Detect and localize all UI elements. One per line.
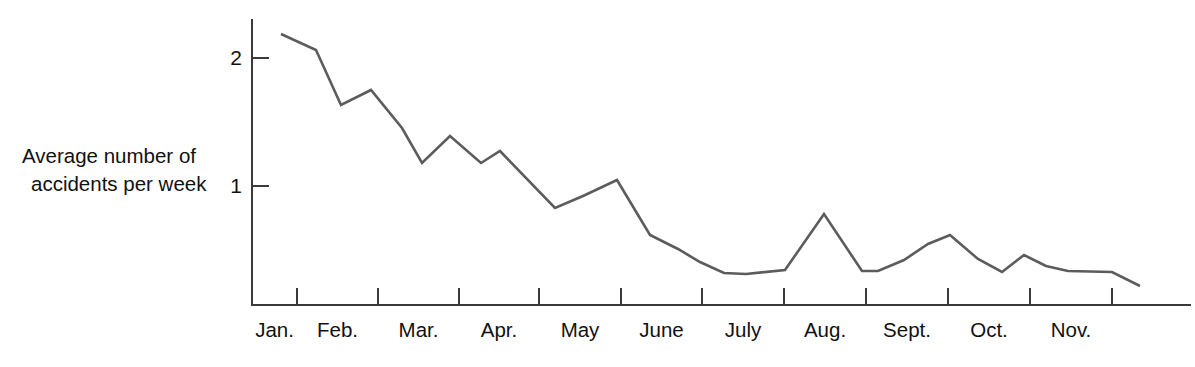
- plot-area: [0, 0, 1195, 367]
- y-tick-label: 1: [212, 175, 242, 196]
- y-tick-marks: [252, 58, 269, 186]
- data-series-line: [281, 34, 1140, 286]
- x-tick-marks: [252, 287, 1112, 305]
- chart-figure: Average number of accidents per week 12 …: [0, 0, 1195, 367]
- axes-group: [252, 20, 1190, 305]
- x-tick-label: Nov.: [1011, 320, 1131, 341]
- y-tick-label: 2: [212, 47, 242, 68]
